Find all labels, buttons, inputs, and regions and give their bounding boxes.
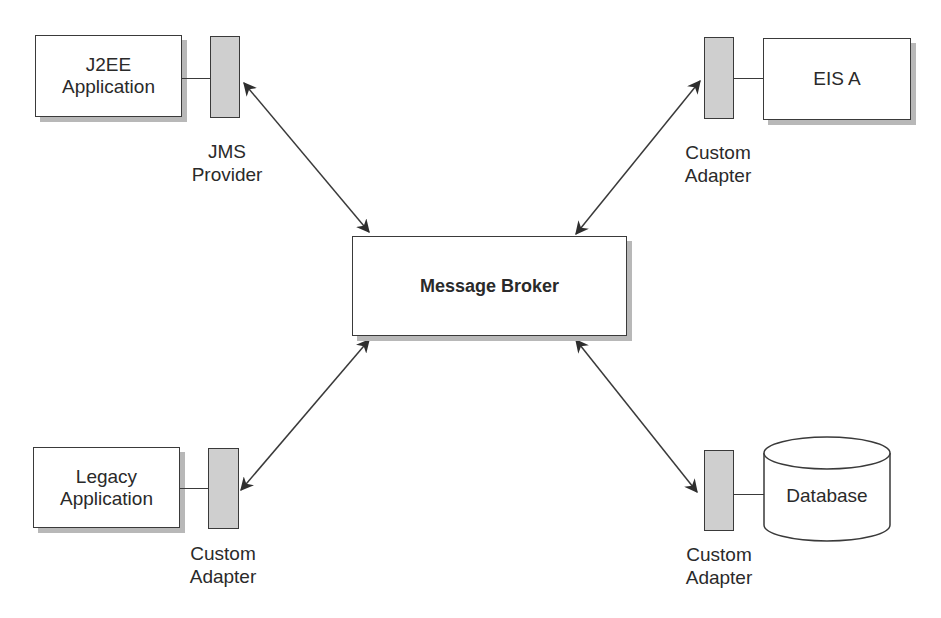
eis-adapter-connector: [734, 78, 763, 79]
j2ee-application-box: J2EE Application: [35, 35, 182, 117]
eis-adapter-label-line2: Adapter: [658, 164, 778, 187]
database-adapter-label-line1: Custom: [659, 543, 779, 566]
legacy-label-line2: Application: [60, 488, 153, 510]
j2ee-jms-connector: [182, 78, 210, 79]
database-adapter-connector: [734, 494, 764, 495]
legacy-adapter-connector: [180, 488, 208, 489]
legacy-adapter-label: Custom Adapter: [163, 542, 283, 588]
message-broker-box: Message Broker: [352, 236, 627, 336]
arrow-database-broker: [576, 340, 697, 492]
jms-provider-label: JMS Provider: [167, 140, 287, 186]
database-adapter-label-line2: Adapter: [659, 566, 779, 589]
arrow-legacy-broker: [241, 340, 369, 490]
j2ee-label-line2: Application: [62, 76, 155, 98]
j2ee-label-line1: J2EE: [62, 54, 155, 76]
eis-a-label: EIS A: [813, 68, 861, 90]
legacy-custom-adapter: [208, 448, 239, 529]
eis-adapter-label-line1: Custom: [658, 141, 778, 164]
eis-a-box: EIS A: [763, 38, 911, 120]
eis-custom-adapter: [704, 37, 734, 119]
eis-adapter-label: Custom Adapter: [658, 141, 778, 187]
legacy-application-box: Legacy Application: [33, 447, 180, 528]
jms-label-line1: JMS: [167, 140, 287, 163]
legacy-label-line1: Legacy: [60, 466, 153, 488]
database-label: Database: [764, 485, 890, 507]
jms-label-line2: Provider: [167, 163, 287, 186]
database-custom-adapter: [704, 450, 734, 531]
legacy-adapter-label-line2: Adapter: [163, 565, 283, 588]
database-adapter-label: Custom Adapter: [659, 543, 779, 589]
jms-provider-adapter: [210, 36, 240, 118]
message-broker-label: Message Broker: [420, 275, 559, 297]
legacy-adapter-label-line1: Custom: [163, 542, 283, 565]
